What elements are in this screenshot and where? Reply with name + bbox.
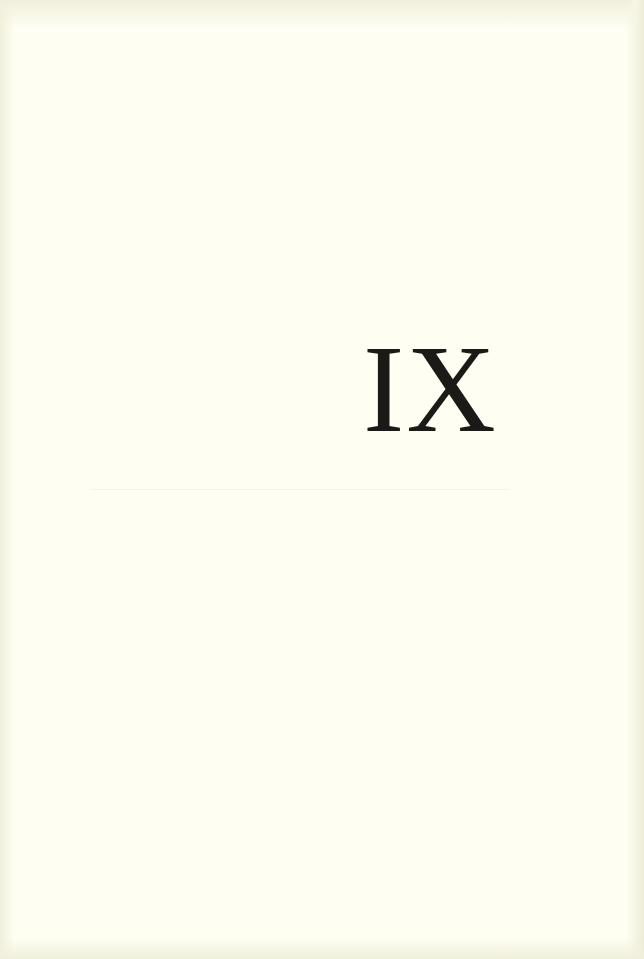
- scan-edge-top: [0, 0, 644, 28]
- scan-edge-left: [0, 0, 14, 959]
- chapter-numeral: IX: [363, 328, 498, 452]
- scan-edge-bottom: [0, 937, 644, 959]
- book-page: IX: [0, 0, 644, 959]
- show-through-line: [90, 489, 510, 490]
- scan-edge-right: [626, 0, 644, 959]
